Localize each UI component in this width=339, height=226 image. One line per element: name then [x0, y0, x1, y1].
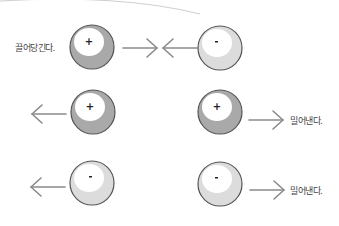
negative-charge-icon	[70, 161, 114, 205]
arrow-left-icon	[32, 105, 66, 123]
repel-label: 밀어낸다.	[290, 114, 322, 127]
attract-label: 끌어당긴다.	[15, 41, 55, 54]
row-repel-negative	[31, 161, 284, 206]
svg-text:+: +	[86, 101, 94, 112]
arrow-right-icon	[250, 181, 284, 199]
arrow-right-icon	[123, 39, 157, 57]
positive-charge-icon: +	[70, 25, 114, 69]
row-repel-positive: + +	[32, 90, 283, 134]
negative-charge-icon	[198, 162, 242, 206]
decorative-arc	[0, 0, 200, 14]
arrow-right-icon	[249, 111, 283, 129]
negative-charge-icon	[198, 26, 242, 70]
positive-charge-icon: +	[198, 90, 242, 134]
repel-label: 밀어낸다.	[290, 184, 322, 197]
positive-charge-icon: +	[71, 90, 115, 134]
row-attract: +	[70, 25, 242, 70]
svg-text:+: +	[213, 101, 221, 112]
arrow-left-icon	[163, 39, 197, 57]
arrow-left-icon	[31, 178, 65, 196]
svg-text:+: +	[85, 36, 93, 47]
charge-diagram: + + +	[0, 0, 339, 226]
